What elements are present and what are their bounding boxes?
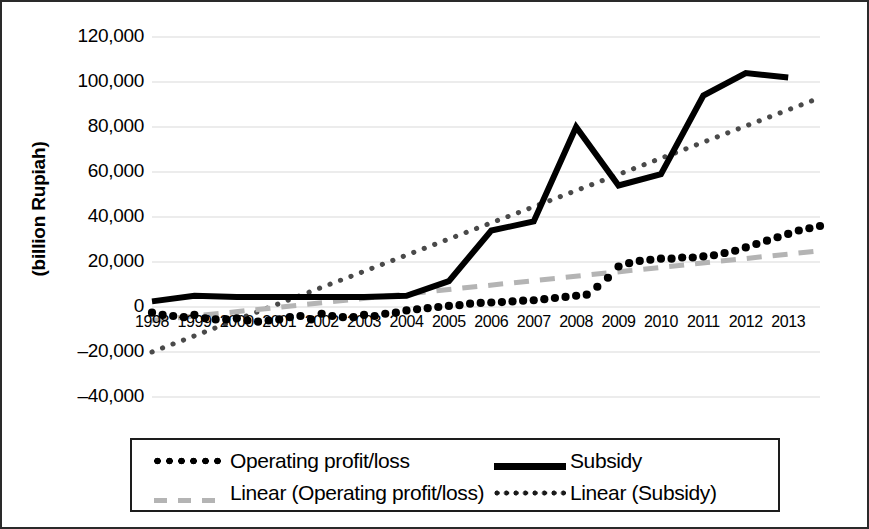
legend-key-dashed-line-icon bbox=[154, 498, 226, 503]
y-axis-tick-label: 60,000 bbox=[22, 160, 144, 182]
x-axis-tick-label: 2013 bbox=[760, 313, 816, 331]
gridlines bbox=[152, 37, 820, 397]
series-linear-operating-profit-loss bbox=[152, 251, 820, 321]
legend-label: Linear (Subsidy) bbox=[570, 481, 717, 505]
legend-key-solid-line-icon bbox=[494, 463, 566, 470]
legend-label: Operating profit/loss bbox=[230, 449, 410, 473]
y-axis-tick-label: –20,000 bbox=[22, 340, 144, 362]
y-axis-tick-label: 100,000 bbox=[22, 70, 144, 92]
y-axis-tick-label: 40,000 bbox=[22, 205, 144, 227]
chart-figure: (billion Rupiah) 120,000100,00080,00060,… bbox=[0, 0, 869, 529]
chart-legend: Operating profit/loss Subsidy Linear (Op… bbox=[130, 438, 780, 512]
legend-key-dotted-marker-icon bbox=[154, 452, 226, 470]
series-subsidy bbox=[152, 73, 788, 301]
y-axis-tick-label: –40,000 bbox=[22, 385, 144, 407]
y-axis-tick-label: 20,000 bbox=[22, 250, 144, 272]
legend-key-fine-dotted-line-icon bbox=[494, 484, 566, 502]
legend-label: Subsidy bbox=[570, 449, 642, 473]
legend-label: Linear (Operating profit/loss) bbox=[230, 481, 484, 505]
legend-item-operating-profit-loss: Operating profit/loss bbox=[154, 446, 410, 476]
legend-item-linear-subsidy: Linear (Subsidy) bbox=[494, 478, 717, 508]
y-axis-tick-label: 80,000 bbox=[22, 115, 144, 137]
y-axis-tick-label: 120,000 bbox=[22, 25, 144, 47]
legend-item-linear-operating-profit-loss: Linear (Operating profit/loss) bbox=[154, 478, 484, 508]
legend-item-subsidy: Subsidy bbox=[494, 446, 642, 476]
